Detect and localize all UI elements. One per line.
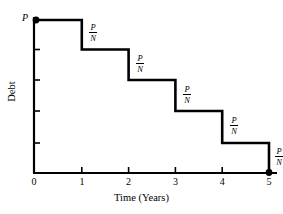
- drop-label-year-5-denominator: N: [272, 158, 283, 167]
- x-tick-label-4: 4: [215, 176, 229, 187]
- x-tick-label-5: 5: [262, 176, 276, 187]
- x-axis-title: Time (Years): [0, 192, 283, 203]
- drop-label-year-4-denominator: N: [227, 127, 241, 136]
- drop-label-year-4-numerator: P: [227, 116, 241, 125]
- drop-label-year-2-denominator: N: [133, 65, 147, 74]
- drop-label-year-5-numerator: P: [272, 147, 283, 156]
- drop-label-year-3-denominator: N: [180, 96, 194, 105]
- chart-plot-area: [0, 0, 283, 214]
- x-tick-label-2: 2: [122, 176, 136, 187]
- initial-debt-point-marker: [33, 17, 40, 24]
- drop-label-year-3: P N: [180, 85, 194, 104]
- x-tick-label-3: 3: [168, 176, 182, 187]
- debt-vs-time-step-chart: P P N P N P N P N P N 0 1 2 3 4 5 Time (…: [0, 0, 283, 214]
- x-tick-label-1: 1: [75, 176, 89, 187]
- x-tick-label-0: 0: [27, 176, 41, 187]
- drop-label-year-4: P N: [227, 116, 241, 135]
- drop-label-year-1-denominator: N: [86, 34, 100, 43]
- drop-label-year-2-numerator: P: [133, 54, 147, 63]
- drop-label-year-2: P N: [133, 54, 147, 73]
- drop-label-year-5: P N: [272, 147, 283, 166]
- drop-label-year-3-numerator: P: [180, 85, 194, 94]
- y-axis-title: Debt: [6, 67, 17, 117]
- final-debt-point-marker: [266, 169, 273, 176]
- drop-label-year-1: P N: [86, 23, 100, 42]
- debt-step-line: [35, 20, 269, 173]
- initial-debt-label: P: [22, 12, 28, 23]
- drop-label-year-1-numerator: P: [86, 23, 100, 32]
